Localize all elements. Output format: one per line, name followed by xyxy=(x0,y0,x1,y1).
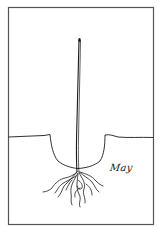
ground-line-left xyxy=(9,135,51,138)
seedling-bud xyxy=(78,38,81,42)
frame-border xyxy=(9,8,154,225)
planting-hole xyxy=(50,135,105,169)
month-caption: May xyxy=(109,162,133,173)
ground-line-right xyxy=(105,135,154,138)
root-system xyxy=(43,172,103,207)
seedling-drawing xyxy=(0,0,161,229)
